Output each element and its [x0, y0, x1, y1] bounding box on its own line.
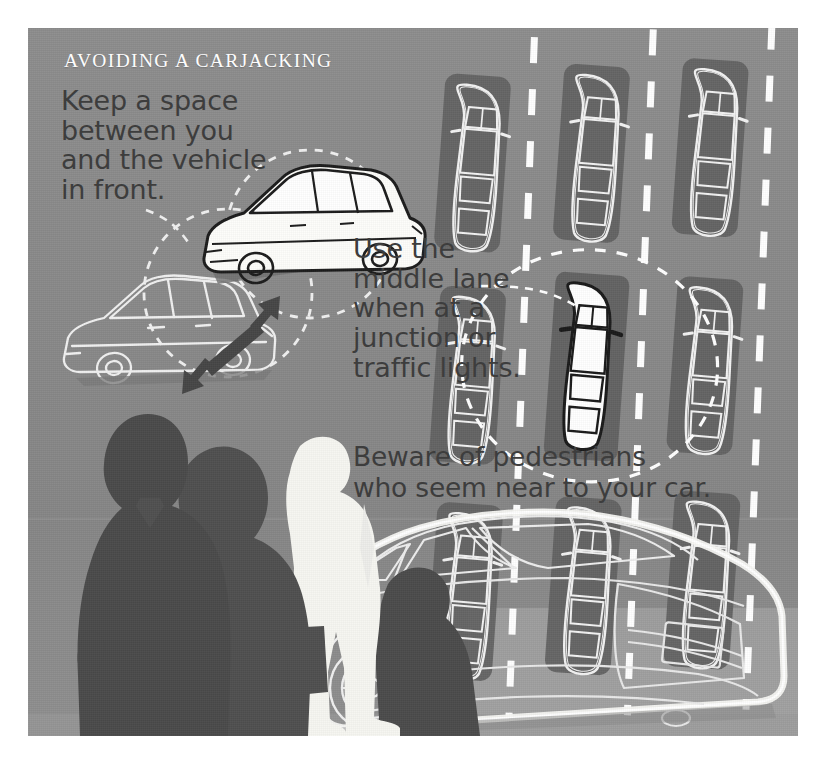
infographic-poster: AVOIDING A CARJACKING Keep a space betwe… — [0, 0, 826, 764]
page-title: AVOIDING A CARJACKING — [64, 50, 333, 72]
callout-beware-pedestrians: Beware of pedestrians who seem near to y… — [353, 441, 711, 504]
poster-panel: AVOIDING A CARJACKING Keep a space betwe… — [28, 28, 798, 736]
callout-keep-a-space: Keep a space between you and the vehicle… — [61, 86, 266, 205]
background-ground-strip — [28, 714, 798, 736]
callout-use-middle-lane: Use the middle lane when at a junction o… — [353, 234, 521, 382]
